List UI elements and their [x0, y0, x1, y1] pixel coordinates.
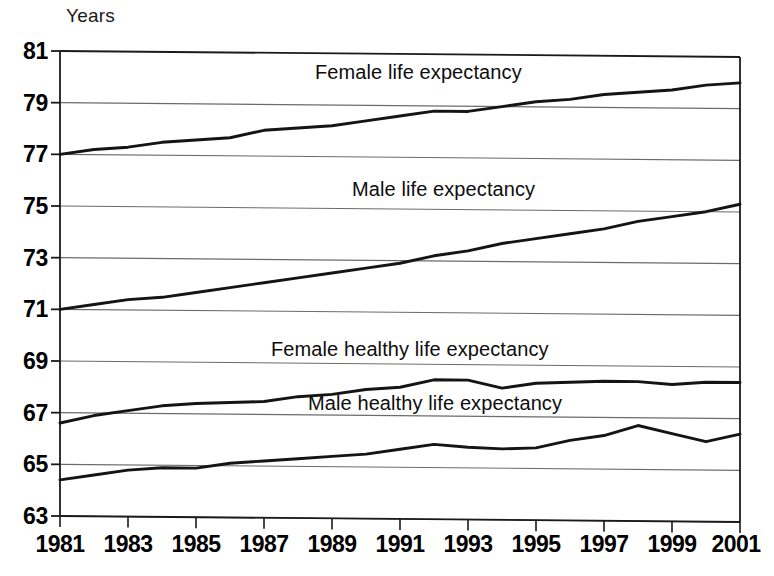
series-line-0: [60, 83, 740, 154]
gridline-75: [60, 206, 740, 212]
y-tick-label-67: 67: [2, 400, 48, 427]
y-tick-label-75: 75: [2, 193, 48, 220]
y-tick-label-77: 77: [2, 141, 48, 168]
y-tick-label-73: 73: [2, 245, 48, 272]
series-label-female-healthy-life-expectancy: Female healthy life expectancy: [271, 338, 549, 361]
y-tick-label-71: 71: [2, 296, 48, 323]
gridline-71: [60, 309, 740, 315]
life-expectancy-line-chart: Years 81 79 77 75 73 71 69 67 65 63 1981…: [0, 0, 774, 576]
gridline-79: [60, 103, 740, 109]
gridline-77: [60, 154, 740, 160]
axis-ticks: [51, 51, 740, 533]
x-tick-label-2001: 2001: [693, 531, 774, 558]
series-label-female-life-expectancy: Female life expectancy: [315, 61, 522, 84]
y-tick-label-63: 63: [2, 503, 48, 530]
series-line-3: [60, 426, 740, 480]
gridlines: [60, 103, 740, 522]
y-tick-label-79: 79: [2, 90, 48, 117]
series-label-male-life-expectancy: Male life expectancy: [352, 178, 535, 201]
top-spine: [60, 51, 740, 57]
data-series-lines: [60, 83, 740, 480]
gridline-69: [60, 361, 740, 367]
y-tick-label-69: 69: [2, 348, 48, 375]
y-tick-label-81: 81: [2, 38, 48, 65]
series-label-male-healthy-life-expectancy: Male healthy life expectancy: [308, 392, 562, 415]
series-line-1: [60, 204, 740, 309]
plot-area: [0, 0, 774, 576]
axis-lines: [60, 51, 740, 522]
y-tick-label-65: 65: [2, 451, 48, 478]
y-axis-title: Years: [66, 5, 115, 27]
